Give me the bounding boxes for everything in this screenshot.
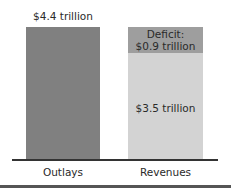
outlays-bar [26,27,100,159]
deficit-value-label: $0.9 trillion [128,40,203,52]
x-tick-outlays: Outlays [26,166,100,178]
x-tick-revenues: Revenues [128,166,203,178]
bottom-divider [0,185,231,188]
x-axis-baseline [12,159,218,161]
outlays-value-label: $4.4 trillion [26,10,100,22]
revenues-value-label: $3.5 trillion [128,102,203,114]
deficit-title-label: Deficit: [128,28,203,40]
